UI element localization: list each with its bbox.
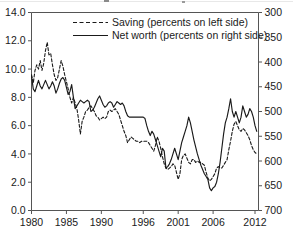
series-line-saving xyxy=(32,42,257,181)
x-axis-tick-label: 1980 xyxy=(20,216,44,228)
left-axis-tick-label: 10.0 xyxy=(5,63,26,75)
legend-label-saving: Saving (percents on left side) xyxy=(112,16,248,28)
series-line-net-worth xyxy=(32,76,257,191)
right-axis-tick-label: 600 xyxy=(265,155,283,167)
left-axis-tick-label: 14.0 xyxy=(5,6,26,18)
right-axis-tick-label: 400 xyxy=(265,56,283,68)
right-axis-tick-label: 650 xyxy=(265,179,283,191)
chart-figure: 0.02.04.06.08.010.012.014.03003504004505… xyxy=(0,0,293,234)
x-axis-tick-label: 1996 xyxy=(132,216,156,228)
savings-net-worth-line-chart: 0.02.04.06.08.010.012.014.03003504004505… xyxy=(0,0,293,234)
left-axis-tick-label: 12.0 xyxy=(5,34,26,46)
right-axis-tick-label: 500 xyxy=(265,105,283,117)
left-axis-tick-label: 0.0 xyxy=(11,204,26,216)
left-axis-tick-label: 6.0 xyxy=(11,119,26,131)
left-axis-tick-label: 4.0 xyxy=(11,148,26,160)
x-axis-tick-label: 1985 xyxy=(55,216,79,228)
right-axis-tick-label: 300 xyxy=(265,6,283,18)
right-axis-tick-label: 550 xyxy=(265,130,283,142)
right-axis-tick-label: 450 xyxy=(265,80,283,92)
right-axis-tick-label: 700 xyxy=(265,204,283,216)
x-axis-tick-label: 2012 xyxy=(243,216,267,228)
left-axis-tick-label: 2.0 xyxy=(11,176,26,188)
x-axis-tick-label: 2001 xyxy=(166,216,190,228)
left-axis-tick-label: 8.0 xyxy=(11,91,26,103)
legend-label-net-worth: Net worth (percents on right side) xyxy=(112,29,267,41)
x-axis-tick-label: 1990 xyxy=(90,216,114,228)
x-axis-tick-label: 2006 xyxy=(201,216,225,228)
